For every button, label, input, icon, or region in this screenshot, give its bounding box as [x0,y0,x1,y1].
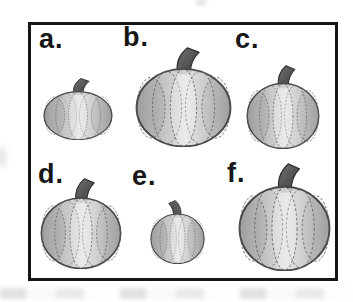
pumpkin-icon [43,78,113,140]
pumpkin-label-e: e. [132,162,157,192]
pumpkin-icon [135,47,232,147]
pumpkin-icon [40,178,122,269]
pumpkin-icon [150,200,205,264]
pumpkin-c-illustration [246,65,320,149]
figure-frame: a. b. c. d. e. f. [28,22,338,281]
pumpkin-b-illustration [135,47,232,147]
pumpkin-d-illustration [40,178,122,269]
pumpkin-e-illustration [150,200,205,264]
pumpkin-f-illustration [238,163,331,271]
scan-artifact-bottom [0,288,353,299]
pumpkin-label-a: a. [39,25,64,55]
scan-artifact-top [196,0,206,5]
pumpkin-icon [246,65,320,149]
pumpkin-icon [238,163,331,271]
scan-artifact-left [0,146,6,168]
pumpkin-a-illustration [43,78,113,140]
pumpkin-label-c: c. [235,25,260,55]
